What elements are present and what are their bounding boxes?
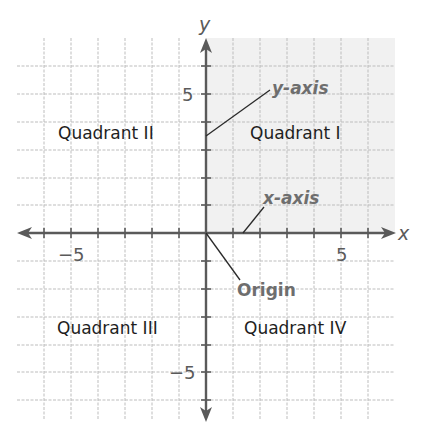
x-axis-callout: x-axis bbox=[262, 188, 319, 208]
origin-leader-line bbox=[206, 233, 240, 280]
y-tick-5: 5 bbox=[182, 84, 193, 105]
quadrant-iii-label: Quadrant III bbox=[57, 318, 158, 338]
coordinate-plane: y x 5 −5 −5 5 Quadrant II Quadrant I Qua… bbox=[0, 0, 428, 424]
y-tick-neg5: −5 bbox=[169, 362, 196, 383]
origin-callout: Origin bbox=[237, 280, 296, 300]
quadrant-i-label: Quadrant I bbox=[250, 123, 341, 143]
x-tick-neg5: −5 bbox=[58, 244, 85, 265]
quadrant-ii-label: Quadrant II bbox=[58, 123, 154, 143]
y-axis-letter: y bbox=[198, 13, 211, 35]
x-axis-letter: x bbox=[397, 222, 410, 244]
quadrant-iv-label: Quadrant IV bbox=[244, 318, 347, 338]
y-axis-callout: y-axis bbox=[272, 78, 329, 98]
x-tick-5: 5 bbox=[336, 244, 347, 265]
